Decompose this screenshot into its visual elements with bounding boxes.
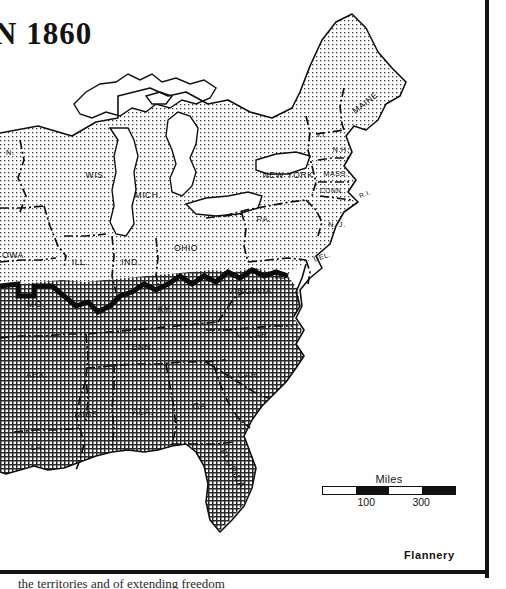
map-page: N.WIS.MICH.OWAILL.IND.OHIOPA.NEW YORKMAI…	[0, 0, 506, 589]
state-label-mass: MASS.	[324, 170, 349, 177]
scale-bar: Miles 100 300	[322, 473, 456, 510]
state-label-ga: GA.	[193, 401, 209, 411]
state-label-mo: MO.	[27, 299, 45, 309]
state-label-ri: R.I.	[358, 188, 372, 199]
scale-seg-3	[389, 487, 422, 494]
scale-seg-1	[323, 487, 356, 494]
scale-bar-ticks: 100 300	[322, 496, 456, 510]
state-label-tenn: TENN.	[126, 342, 155, 352]
state-label-conn: CONN.	[320, 187, 344, 194]
state-label-pa: PA.	[257, 214, 272, 224]
state-label-vt: VT.	[316, 131, 328, 138]
state-label-nj: N. J.	[328, 221, 345, 228]
state-label-n: N.	[6, 148, 15, 157]
state-label-ill: ILL.	[72, 257, 89, 267]
scale-tick-100: 100	[357, 496, 375, 508]
state-label-la: LA.	[31, 442, 46, 452]
state-label-ala: ALA.	[133, 407, 154, 417]
state-label-md: MD.	[275, 273, 290, 280]
scale-seg-4	[422, 487, 455, 494]
state-label-owa: OWA	[2, 250, 24, 260]
state-label-scar: S. CAR.	[226, 370, 261, 380]
state-label-ohio: OHIO	[174, 243, 198, 253]
scale-tick-300: 300	[412, 496, 430, 508]
state-label-virginia: VIRGINIA	[228, 286, 272, 296]
state-label-mich: MICH.	[134, 190, 161, 200]
state-label-ncar: N. CAR.	[235, 330, 270, 340]
frame-border-right	[485, 0, 489, 578]
page-caption-stub: the territories and of extending freedom	[18, 576, 478, 589]
state-label-nh: N.H.	[333, 146, 349, 153]
state-label-newyork: NEW YORK	[263, 170, 314, 180]
state-label-ky: KY.	[158, 304, 172, 314]
state-label-ind: IND.	[121, 257, 140, 267]
scale-bar-graphic	[322, 486, 456, 495]
scale-bar-caption: Miles	[322, 473, 456, 485]
frame-border-bottom	[0, 570, 489, 574]
map-title: N 1860	[0, 16, 92, 52]
state-label-ark: ARK.	[26, 370, 48, 380]
state-label-miss: MISS.	[75, 409, 101, 419]
scale-seg-2	[356, 487, 389, 494]
state-label-wis: WIS.	[86, 170, 107, 180]
cartographer-signature: Flannery	[404, 549, 455, 561]
